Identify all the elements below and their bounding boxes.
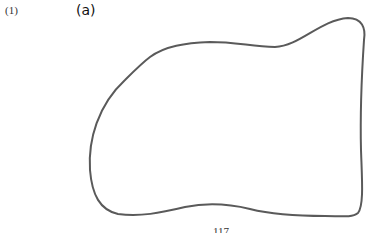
page-number: 117 [213,225,229,233]
blob-outline [0,0,370,233]
